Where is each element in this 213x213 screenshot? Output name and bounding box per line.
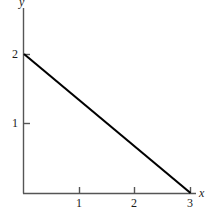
y-tick-label-1: 1 (4, 117, 18, 129)
x-tick-label-1: 1 (69, 197, 89, 209)
x-tick-label-3: 3 (180, 197, 200, 209)
x-tick-label-2: 2 (124, 197, 144, 209)
plot-canvas (0, 0, 213, 213)
y-tick-label-2: 2 (4, 48, 18, 60)
data-line-segment (24, 54, 191, 193)
y-axis-label: y (19, 0, 24, 8)
plot-figure: y x 2 1 1 2 3 (0, 0, 213, 213)
